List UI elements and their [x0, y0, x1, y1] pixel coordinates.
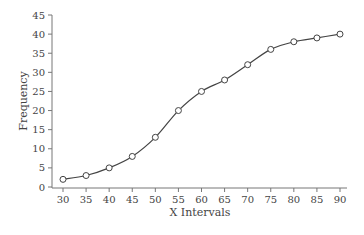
y-tick-label: 40 [32, 29, 45, 40]
x-tick-label: 55 [172, 194, 185, 205]
data-point-marker [83, 173, 89, 179]
y-tick-label: 30 [32, 67, 45, 78]
data-point-marker [291, 39, 297, 45]
x-tick-label: 75 [264, 194, 277, 205]
data-point-marker [129, 153, 135, 159]
data-point-marker [60, 176, 66, 182]
x-tick-label: 50 [149, 194, 162, 205]
x-tick-label: 90 [334, 194, 347, 205]
y-tick-label: 35 [32, 48, 45, 59]
x-tick-label: 70 [241, 194, 254, 205]
x-tick-label: 85 [311, 194, 324, 205]
y-tick-label: 15 [32, 124, 45, 135]
x-axis-label: X Intervals [170, 206, 231, 219]
x-tick-label: 35 [80, 194, 93, 205]
y-tick-label: 10 [32, 143, 45, 154]
data-point-marker [199, 88, 205, 94]
x-tick-label: 65 [218, 194, 231, 205]
x-tick-label: 30 [57, 194, 70, 205]
data-point-marker [175, 108, 181, 114]
y-tick-label: 45 [32, 10, 45, 21]
data-point-marker [245, 62, 251, 68]
x-tick-label: 60 [195, 194, 208, 205]
y-axis-label: Frequency [17, 70, 30, 130]
data-point-marker [268, 46, 274, 52]
y-tick-label: 25 [32, 86, 45, 97]
y-tick-label: 20 [32, 105, 45, 116]
data-point-marker [337, 31, 343, 37]
data-point-marker [222, 77, 228, 83]
y-axis: 051015202530354045 [32, 10, 52, 193]
x-axis: 30354045505560657075808590 [52, 188, 347, 205]
data-point-marker [314, 35, 320, 41]
x-tick-label: 80 [287, 194, 300, 205]
x-tick-label: 40 [103, 194, 116, 205]
plot-area [60, 31, 343, 182]
cumulative-frequency-chart: 051015202530354045 303540455055606570758… [0, 0, 364, 235]
y-tick-label: 0 [39, 182, 45, 193]
y-tick-label: 5 [39, 162, 45, 173]
frequency-curve [63, 34, 340, 179]
data-point-marker [152, 134, 158, 140]
x-tick-label: 45 [126, 194, 139, 205]
data-point-marker [106, 165, 112, 171]
